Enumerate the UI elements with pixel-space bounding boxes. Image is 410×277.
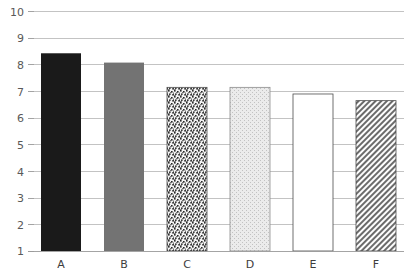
ytick-label-9: 9 [17,32,24,45]
y-tick-marks [28,12,34,252]
chart-canvas: 10 9 8 7 6 5 4 3 2 1 A B C D E F [0,0,410,277]
bar-chart: 10 9 8 7 6 5 4 3 2 1 A B C D E F [0,0,410,277]
xtick-label-E: E [310,258,317,271]
ytick-label-7: 7 [17,86,24,99]
xtick-label-D: D [246,258,254,271]
ytick-label-10: 10 [10,6,24,19]
ytick-label-4: 4 [17,166,24,179]
bar-D[interactable] [230,87,270,251]
ytick-label-8: 8 [17,59,24,72]
ytick-label-3: 3 [17,192,24,205]
xtick-label-B: B [120,258,128,271]
ytick-label-5: 5 [17,139,24,152]
bar-B[interactable] [104,63,144,251]
xtick-label-A: A [57,258,65,271]
xtick-label-F: F [373,258,379,271]
bar-C[interactable] [167,87,207,251]
gridlines [34,12,404,225]
ytick-label-2: 2 [17,219,24,232]
xtick-label-C: C [183,258,191,271]
bar-F[interactable] [356,101,396,251]
bar-A[interactable] [41,53,81,251]
y-axis-labels: 10 9 8 7 6 5 4 3 2 1 [10,6,24,259]
x-axis-labels: A B C D E F [57,258,379,271]
ytick-label-6: 6 [17,112,24,125]
bars [41,53,396,251]
ytick-label-1: 1 [17,245,24,258]
bar-E[interactable] [293,94,333,251]
